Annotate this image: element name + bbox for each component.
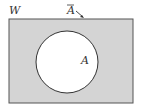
- set-a-label: A: [80, 54, 89, 67]
- complement-label: A: [66, 4, 84, 18]
- complement-label-text: A: [66, 4, 75, 17]
- venn-diagram: W A A: [0, 0, 142, 111]
- universe-label: W: [9, 4, 22, 17]
